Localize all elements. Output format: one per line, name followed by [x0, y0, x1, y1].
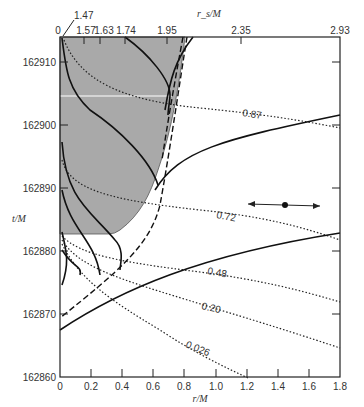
top-axis-title: r_s/M — [197, 8, 222, 19]
svg-text:162880: 162880 — [23, 246, 57, 257]
svg-text:0.026: 0.026 — [184, 339, 212, 359]
x-axis-title: r/M — [193, 393, 209, 404]
svg-text:0: 0 — [57, 381, 63, 392]
chart: 0 0.2 0.4 0.6 0.8 1.0 1.2 1.4 1.6 1.8 r/… — [0, 0, 364, 407]
y-tick-labels: 162860 162870 162880 162890 162900 16291… — [23, 57, 57, 383]
x-ticks — [91, 369, 309, 377]
svg-text:0.6: 0.6 — [146, 381, 160, 392]
svg-text:2.35: 2.35 — [231, 25, 251, 36]
svg-text:0.48: 0.48 — [207, 265, 229, 279]
svg-text:1.6: 1.6 — [302, 381, 316, 392]
svg-text:162890: 162890 — [23, 183, 57, 194]
y-axis-title: t/M — [12, 213, 27, 224]
x-tick-labels: 0 0.2 0.4 0.6 0.8 1.0 1.2 1.4 1.6 1.8 — [57, 381, 347, 392]
svg-text:1.0: 1.0 — [209, 381, 223, 392]
svg-text:1.8: 1.8 — [333, 381, 347, 392]
dotted-curve-labels: 0.87 0.72 0.48 0.20 0.026 — [184, 107, 263, 358]
top-tick-labels: 0 1.57 1.63 1.74 1.95 2.35 2.93 — [55, 25, 350, 36]
svg-text:1.74: 1.74 — [116, 25, 136, 36]
svg-text:162870: 162870 — [23, 309, 57, 320]
svg-text:0.8: 0.8 — [177, 381, 191, 392]
top-tick-callout: 1.47 — [74, 10, 94, 21]
svg-text:1.2: 1.2 — [240, 381, 254, 392]
svg-text:162910: 162910 — [23, 57, 57, 68]
svg-text:0.20: 0.20 — [201, 300, 223, 315]
svg-text:0.2: 0.2 — [84, 381, 98, 392]
svg-text:2.93: 2.93 — [330, 25, 350, 36]
svg-text:162860: 162860 — [23, 372, 57, 383]
svg-text:1.63: 1.63 — [94, 25, 114, 36]
callout-arrow — [63, 20, 74, 36]
svg-text:0: 0 — [55, 25, 61, 36]
svg-text:1.95: 1.95 — [157, 25, 177, 36]
svg-text:1.57: 1.57 — [76, 25, 96, 36]
svg-text:1.4: 1.4 — [271, 381, 285, 392]
svg-text:0.4: 0.4 — [115, 381, 129, 392]
svg-text:162900: 162900 — [23, 120, 57, 131]
double-arrow-annotation — [248, 201, 320, 209]
svg-text:0.72: 0.72 — [216, 209, 238, 223]
svg-text:0.87: 0.87 — [242, 107, 263, 121]
